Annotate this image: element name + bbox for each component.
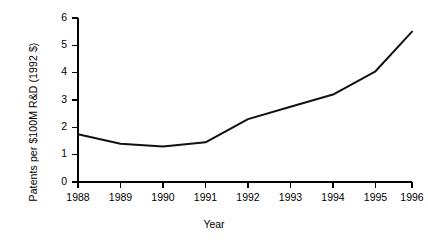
x-tick-label: 1992 bbox=[236, 191, 260, 203]
x-tick-label: 1994 bbox=[321, 191, 345, 203]
x-tick-labels: 1988 1989 1990 1991 1992 1993 1994 1995 … bbox=[66, 191, 424, 203]
x-tick-label: 1990 bbox=[151, 191, 175, 203]
y-tick-label: 0 bbox=[61, 175, 67, 187]
y-tick-label: 1 bbox=[61, 147, 67, 159]
x-tick-label: 1989 bbox=[109, 191, 133, 203]
y-tick-marks bbox=[72, 18, 78, 182]
y-tick-label: 6 bbox=[61, 11, 67, 23]
x-tick-marks bbox=[78, 182, 412, 188]
x-tick-label: 1996 bbox=[400, 191, 424, 203]
y-tick-label: 5 bbox=[61, 38, 67, 50]
chart-container: Patents per $100M R&D (1992 $) 6 5 4 3 2… bbox=[0, 0, 428, 244]
y-axis-group: 6 5 4 3 2 1 0 bbox=[61, 11, 78, 187]
x-tick-label: 1988 bbox=[66, 191, 90, 203]
y-tick-label: 3 bbox=[61, 93, 67, 105]
x-axis-title: Year bbox=[0, 218, 428, 230]
x-tick-label: 1991 bbox=[194, 191, 218, 203]
y-tick-labels: 6 5 4 3 2 1 0 bbox=[61, 11, 67, 187]
y-tick-label: 2 bbox=[61, 120, 67, 132]
x-tick-label: 1993 bbox=[279, 191, 303, 203]
x-tick-label: 1995 bbox=[364, 191, 388, 203]
data-series-line bbox=[78, 32, 412, 147]
y-tick-label: 4 bbox=[61, 65, 67, 77]
x-axis-group: 1988 1989 1990 1991 1992 1993 1994 1995 … bbox=[66, 182, 424, 203]
line-chart-plot: 6 5 4 3 2 1 0 198 bbox=[0, 0, 428, 244]
